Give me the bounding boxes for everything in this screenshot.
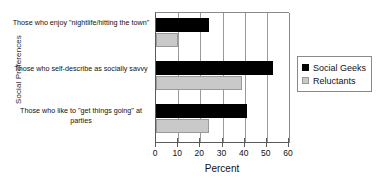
x-axis-tick-label: 60 [276, 148, 300, 158]
bar-social-geeks [156, 18, 209, 32]
category-label: Those who enjoy "nightlife/hitting the t… [12, 18, 150, 28]
x-axis-tick [222, 138, 223, 147]
x-axis-title: Percent [155, 163, 289, 174]
legend-item-label: Social Geeks [313, 63, 366, 73]
gridline [267, 13, 268, 143]
x-axis-tick-label: 0 [143, 148, 167, 158]
legend-swatch-icon [302, 77, 309, 84]
x-axis-tick-label: 10 [165, 148, 189, 158]
bar-chart: Social Preferences Those who enjoy "nigh… [0, 0, 386, 186]
x-axis-tick-label: 50 [254, 148, 278, 158]
plot-area [155, 12, 289, 143]
bar-social-geeks [156, 104, 247, 118]
gridline [245, 13, 246, 143]
x-axis-tick-label: 30 [210, 148, 234, 158]
x-axis-tick [199, 138, 200, 147]
legend-swatch-icon [302, 64, 309, 71]
category-label: Those who self-describe as socially savv… [12, 64, 150, 74]
bar-reluctants [156, 33, 178, 47]
category-label: Those who like to "get things going" at … [12, 106, 150, 125]
legend-item-reluctants: Reluctants [302, 74, 366, 87]
legend-item-label: Reluctants [313, 76, 356, 86]
x-axis-tick [288, 138, 289, 147]
x-axis-tick [244, 138, 245, 147]
bar-reluctants [156, 76, 242, 90]
bar-reluctants [156, 119, 209, 133]
category-label-list: Those who enjoy "nightlife/hitting the t… [12, 12, 150, 142]
legend: Social Geeks Reluctants [297, 56, 372, 92]
legend-item-social-geeks: Social Geeks [302, 61, 366, 74]
bar-social-geeks [156, 61, 273, 75]
x-axis-tick-label: 20 [187, 148, 211, 158]
gridline [289, 13, 290, 143]
x-axis-tick-label: 40 [232, 148, 256, 158]
x-axis-tick [177, 138, 178, 147]
x-axis-tick [155, 138, 156, 147]
x-axis-tick [266, 138, 267, 147]
